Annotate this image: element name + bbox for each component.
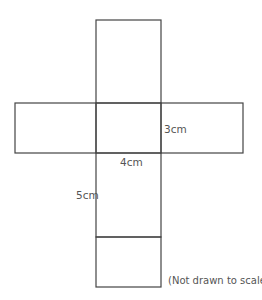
face-center — [96, 103, 161, 153]
scale-note: (Not drawn to scale) — [168, 276, 262, 286]
length-label: 5cm — [76, 190, 99, 201]
face-bottom-end — [96, 237, 161, 287]
width-label: 4cm — [120, 157, 143, 168]
face-top-flap — [96, 20, 161, 103]
height-label: 3cm — [164, 124, 187, 135]
face-left-side — [15, 103, 96, 153]
net-diagram — [0, 0, 262, 300]
